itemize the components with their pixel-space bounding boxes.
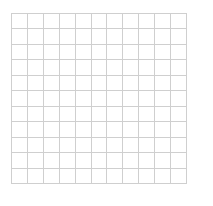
grid-cell (27, 106, 43, 121)
grid-cell (27, 59, 43, 74)
grid-cell (11, 75, 27, 90)
grid-cell (91, 75, 107, 90)
grid-cell (75, 75, 91, 90)
grid-cell (75, 13, 91, 28)
grid-cell (154, 168, 170, 183)
grid-cell (59, 75, 75, 90)
grid-cell (154, 90, 170, 105)
grid-cell (154, 28, 170, 43)
grid-cell (91, 106, 107, 121)
grid-cell (138, 106, 154, 121)
grid-cell (75, 137, 91, 152)
grid-cell (170, 28, 186, 43)
grid-cell (11, 106, 27, 121)
grid-cell (154, 121, 170, 136)
grid-cell (27, 75, 43, 90)
grid-cell (170, 137, 186, 152)
grid-cell (11, 168, 27, 183)
grid-cell (154, 13, 170, 28)
grid-cell (106, 168, 122, 183)
grid-cell (170, 75, 186, 90)
grid-cell (91, 28, 107, 43)
grid-cell (59, 106, 75, 121)
grid-cell (43, 90, 59, 105)
grid-cell (75, 168, 91, 183)
grid-cell (154, 59, 170, 74)
grid-cell (27, 121, 43, 136)
grid-cell (43, 28, 59, 43)
grid-cell (43, 152, 59, 167)
grid-cell (75, 90, 91, 105)
grid-cell (138, 137, 154, 152)
grid-cell (170, 44, 186, 59)
grid-cell (11, 13, 27, 28)
grid-cell (106, 59, 122, 74)
grid-cell (43, 137, 59, 152)
grid-cell (138, 28, 154, 43)
grid-cell (59, 152, 75, 167)
grid-cell (11, 28, 27, 43)
grid-cell (122, 152, 138, 167)
grid-cell (11, 90, 27, 105)
grid-cell (122, 106, 138, 121)
grid-cell (106, 106, 122, 121)
grid-cell (43, 168, 59, 183)
grid-cell (43, 44, 59, 59)
grid-cell (11, 59, 27, 74)
grid-cell (138, 90, 154, 105)
grid-cell (170, 168, 186, 183)
grid-cell (91, 137, 107, 152)
grid-cell (170, 13, 186, 28)
grid-cell (75, 59, 91, 74)
grid-cell (138, 168, 154, 183)
grid-cell (27, 90, 43, 105)
grid-cell (170, 152, 186, 167)
grid-cell (59, 44, 75, 59)
grid-cell (27, 152, 43, 167)
grid-cell (170, 121, 186, 136)
grid-cell (170, 106, 186, 121)
grid-cell (106, 90, 122, 105)
grid-cell (138, 75, 154, 90)
grid-cell (91, 13, 107, 28)
grid-cell (138, 152, 154, 167)
grid-cell (59, 121, 75, 136)
grid-cell (106, 75, 122, 90)
grid-cell (154, 44, 170, 59)
grid-cell (170, 90, 186, 105)
grid-cell (106, 28, 122, 43)
grid-cell (43, 13, 59, 28)
grid-cell (138, 13, 154, 28)
grid-cell (43, 59, 59, 74)
grid-cell (59, 168, 75, 183)
grid-cell (91, 121, 107, 136)
grid-cell (106, 44, 122, 59)
grid-cell (122, 137, 138, 152)
grid-cell (91, 152, 107, 167)
square-grid (11, 13, 187, 184)
grid-cell (27, 44, 43, 59)
grid-cell (75, 152, 91, 167)
grid-cell (106, 137, 122, 152)
grid-cell (75, 44, 91, 59)
grid-cell (75, 106, 91, 121)
grid-cell (11, 44, 27, 59)
grid-cell (43, 121, 59, 136)
grid-cell (122, 168, 138, 183)
grid-cell (59, 28, 75, 43)
grid-cell (27, 28, 43, 43)
grid-cell (91, 168, 107, 183)
grid-cell (138, 59, 154, 74)
grid-cell (43, 106, 59, 121)
grid-cell (106, 121, 122, 136)
grid-cell (122, 28, 138, 43)
grid-cell (43, 75, 59, 90)
grid-cell (27, 168, 43, 183)
grid-cell (59, 90, 75, 105)
grid-cell (75, 121, 91, 136)
grid-cell (122, 44, 138, 59)
grid-cell (59, 59, 75, 74)
grid-cell (138, 44, 154, 59)
grid-cell (122, 75, 138, 90)
grid-cell (11, 137, 27, 152)
